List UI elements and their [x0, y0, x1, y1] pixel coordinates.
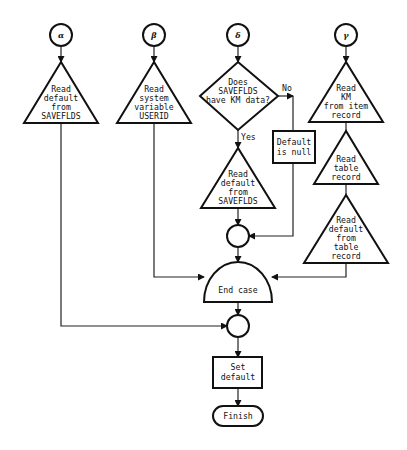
- finish-node: Finish: [213, 406, 263, 426]
- delta-decision-node: Does SAVEFLDS have KM data?: [200, 62, 278, 130]
- node-text: USERID: [139, 111, 169, 121]
- node-text: record: [331, 172, 361, 182]
- node-text: Default: [277, 137, 312, 147]
- no-label: No: [282, 83, 292, 93]
- end-case-node: End case: [204, 262, 272, 302]
- entry-alpha-label: α: [58, 30, 64, 40]
- node-text: SAVEFLDS: [218, 196, 258, 206]
- gamma-read-default-table-node: Read default from table record: [304, 195, 388, 263]
- node-text: Set: [231, 362, 246, 372]
- node-text: is null: [277, 147, 312, 157]
- yes-label: Yes: [241, 132, 256, 142]
- node-text: Finish: [223, 411, 253, 421]
- delta-read-default-node: Read default from SAVEFLDS: [201, 148, 275, 208]
- default-null-node: Default is null: [273, 131, 315, 163]
- entry-gamma-label: γ: [343, 30, 349, 40]
- alpha-read-default-node: Read default from SAVEFLDS: [24, 62, 98, 123]
- entry-beta: β: [143, 24, 165, 46]
- entry-alpha: α: [50, 24, 72, 46]
- flowchart-canvas: α β δ γ Read default from SAVEFLDS Read …: [0, 0, 407, 450]
- gamma-read-km-node: Read KM from item record: [309, 62, 383, 122]
- node-text: SAVEFLDS: [41, 111, 81, 121]
- node-text: End case: [218, 285, 258, 295]
- entry-delta-label: δ: [234, 30, 241, 40]
- delta-merge-connector: [227, 225, 249, 247]
- entry-delta: δ: [227, 24, 249, 46]
- node-text: record: [331, 251, 361, 261]
- entry-gamma: γ: [335, 24, 357, 46]
- node-text: record: [331, 110, 361, 120]
- node-text: default: [221, 372, 256, 382]
- set-default-node: Set default: [213, 357, 262, 388]
- beta-read-userid-node: Read system variable USERID: [117, 62, 191, 123]
- node-text: have KM data?: [206, 95, 270, 105]
- final-merge-connector: [227, 315, 249, 337]
- entry-beta-label: β: [150, 30, 157, 40]
- gamma-read-table-node: Read table record: [314, 131, 378, 184]
